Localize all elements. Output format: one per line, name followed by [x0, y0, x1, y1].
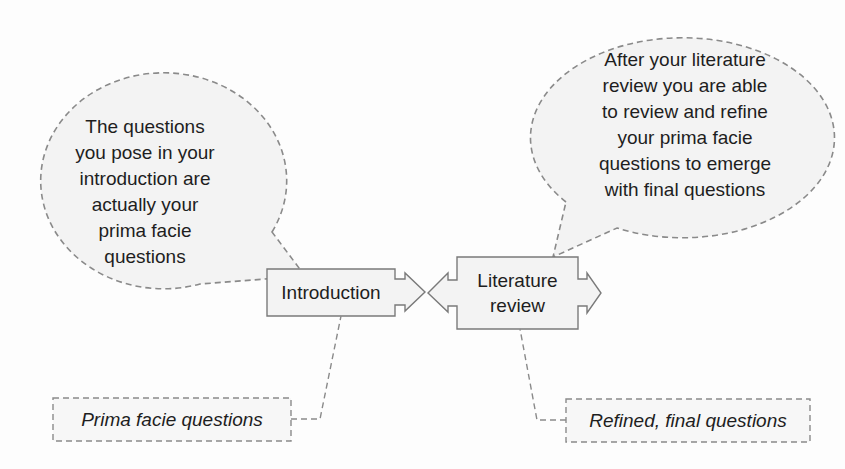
diagram-canvas: The questions you pose in your introduct…	[0, 0, 845, 469]
literature-review-node: Literature review	[457, 268, 578, 318]
introduction-node: Introduction	[267, 280, 395, 305]
right-bubble-line: review you are able	[575, 73, 795, 99]
right-bubble-line: with final questions	[575, 177, 795, 203]
right-connector-line	[520, 329, 566, 420]
refined-final-questions-text: Refined, final questions	[589, 410, 787, 431]
left-bubble-line: The questions	[40, 114, 250, 140]
left-bubble-text: The questions you pose in your introduct…	[40, 114, 250, 270]
literature-review-label-line1: Literature	[457, 268, 578, 293]
right-bubble-text: After your literature review you are abl…	[575, 47, 795, 203]
left-connector-line	[291, 316, 341, 419]
right-bubble-line: to review and refine	[575, 99, 795, 125]
left-bubble-line: introduction are	[40, 166, 250, 192]
prima-facie-questions-label: Prima facie questions	[53, 398, 291, 441]
introduction-label: Introduction	[281, 282, 380, 303]
left-bubble-line: actually your	[40, 192, 250, 218]
left-bubble-line: you pose in your	[40, 140, 250, 166]
literature-review-label-line2: review	[457, 293, 578, 318]
left-bubble-line: questions	[40, 244, 250, 270]
right-bubble-line: your prima facie	[575, 125, 795, 151]
refined-final-questions-label: Refined, final questions	[566, 399, 810, 442]
left-bubble-line: prima facie	[40, 218, 250, 244]
right-bubble-line: After your literature	[575, 47, 795, 73]
right-bubble-line: questions to emerge	[575, 151, 795, 177]
prima-facie-questions-text: Prima facie questions	[81, 409, 263, 430]
